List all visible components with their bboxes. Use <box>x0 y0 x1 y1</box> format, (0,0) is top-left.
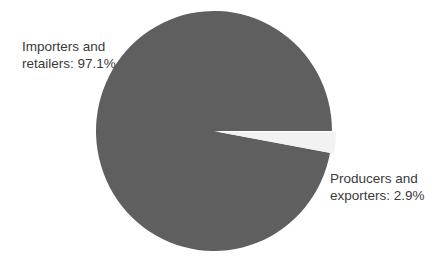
label-producers-line1: Producers and <box>330 170 425 187</box>
label-importers-line2: retailers: 97.1% <box>22 55 116 72</box>
label-importers-line1: Importers and <box>22 38 116 55</box>
slice-importers-retailers <box>96 11 332 251</box>
label-producers-line2: exporters: 2.9% <box>330 187 425 204</box>
label-producers-exporters: Producers and exporters: 2.9% <box>330 170 425 204</box>
label-importers-retailers: Importers and retailers: 97.1% <box>22 38 116 72</box>
